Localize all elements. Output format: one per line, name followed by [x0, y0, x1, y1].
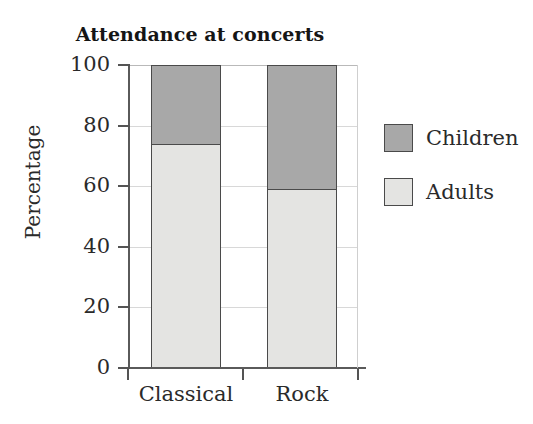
legend-item-children[interactable]: Children [384, 118, 529, 172]
y-tick-mark-60 [118, 185, 130, 187]
plot-area [129, 65, 358, 368]
y-axis-tick-labels: 020406080100 [48, 0, 110, 424]
chart-legend: ChildrenAdults [384, 118, 529, 226]
legend-label-children: Children [426, 123, 518, 153]
x-tick-mark-0 [127, 369, 129, 380]
y-axis-title: Percentage [21, 102, 45, 262]
legend-swatch-children [384, 124, 413, 152]
bar-segment-rock-children [267, 65, 337, 190]
plot-right-border [357, 65, 358, 368]
y-tick-mark-100 [118, 64, 130, 66]
legend-item-adults[interactable]: Adults [384, 172, 529, 226]
y-tick-label-80: 80 [48, 115, 110, 136]
legend-label-adults: Adults [426, 177, 494, 207]
x-tick-label-rock: Rock [232, 384, 372, 405]
y-tick-mark-40 [118, 246, 130, 248]
y-tick-label-0: 0 [48, 357, 110, 378]
bar-segment-classical-adults [151, 144, 221, 369]
bar-segment-rock-adults [267, 189, 337, 369]
y-tick-label-100: 100 [48, 54, 110, 75]
x-tick-mark-1 [242, 369, 244, 380]
x-tick-mark-2 [357, 369, 359, 380]
chart-figure: Attendance at concerts Percentage 020406… [0, 0, 533, 424]
y-tick-mark-20 [118, 306, 130, 308]
y-tick-label-60: 60 [48, 175, 110, 196]
y-axis-line [128, 65, 130, 369]
y-tick-mark-80 [118, 125, 130, 127]
legend-swatch-adults [384, 178, 413, 206]
y-tick-label-20: 20 [48, 296, 110, 317]
y-tick-label-40: 40 [48, 236, 110, 257]
bar-segment-classical-children [151, 65, 221, 145]
